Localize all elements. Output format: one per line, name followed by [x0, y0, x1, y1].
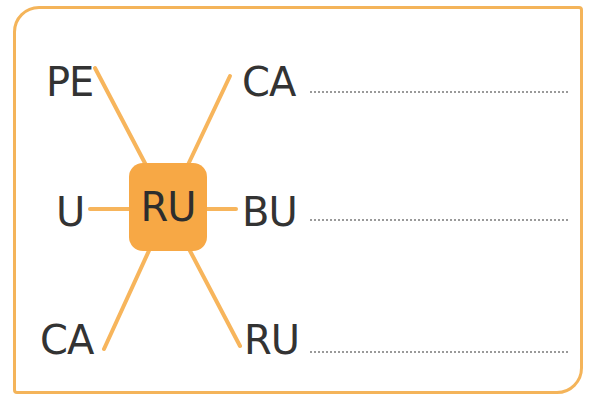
answer-line-2[interactable] — [310, 219, 568, 221]
syllable-ca-left: CA — [40, 320, 93, 360]
center-syllable: RU — [129, 163, 207, 251]
syllable-u: U — [56, 192, 84, 232]
syllable-ca-right: CA — [242, 62, 295, 102]
syllable-ru: RU — [244, 320, 299, 360]
syllable-bu: BU — [242, 192, 297, 232]
syllable-pe: PE — [46, 62, 93, 102]
answer-line-3[interactable] — [310, 351, 568, 353]
answer-line-1[interactable] — [310, 91, 568, 93]
